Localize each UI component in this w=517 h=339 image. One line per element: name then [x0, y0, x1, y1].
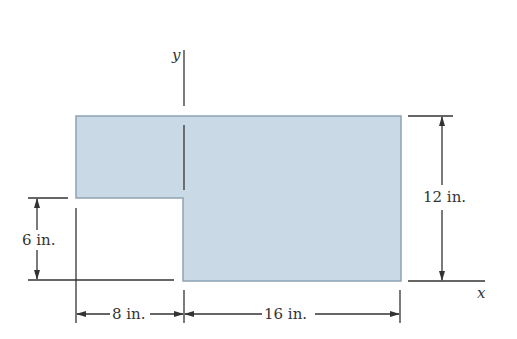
dim-12-label: 12 in. — [423, 188, 466, 206]
dim-6-label: 6 in. — [22, 231, 56, 249]
composite-area-figure: y x 12 in. 6 in. 8 in. 16 in. — [0, 0, 517, 339]
shaded-region — [76, 116, 401, 281]
figure-canvas: y x 12 in. 6 in. 8 in. 16 in. — [0, 0, 517, 339]
dim-16-label: 16 in. — [264, 305, 307, 323]
dim-8-label: 8 in. — [112, 305, 146, 323]
y-axis-label: y — [171, 46, 181, 64]
x-axis-label: x — [477, 284, 486, 302]
